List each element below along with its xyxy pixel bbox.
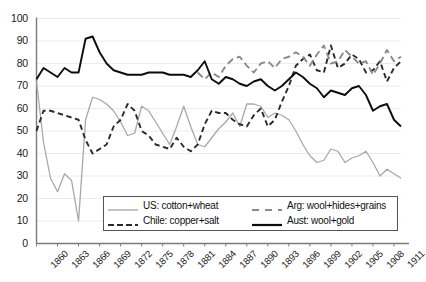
legend-item: Chile: copper+salt: [108, 215, 219, 226]
legend-swatch-icon: [108, 216, 138, 226]
y-tick-label: 10: [2, 214, 28, 226]
y-tick-label: 40: [2, 147, 28, 159]
y-tick-label: 90: [2, 34, 28, 46]
y-tick-label: 60: [2, 102, 28, 114]
legend-swatch-icon: [108, 201, 138, 211]
legend: US: cotton+wheatChile: copper+saltArg: w…: [103, 196, 398, 231]
legend-label: Aust: wool+gold: [287, 215, 354, 226]
y-tick-label: 30: [2, 169, 28, 181]
legend-label: Chile: copper+salt: [143, 215, 219, 226]
y-tick-label: 20: [2, 192, 28, 204]
legend-swatch-icon: [252, 201, 282, 211]
legend-label: Arg: wool+hides+grains: [287, 200, 386, 211]
y-tick-label: 0: [2, 237, 28, 249]
legend-item: Arg: wool+hides+grains: [252, 200, 386, 211]
y-tick-label: 80: [2, 57, 28, 69]
y-tick-label: 50: [2, 124, 28, 136]
legend-swatch-icon: [252, 216, 282, 226]
legend-item: Aust: wool+gold: [252, 215, 354, 226]
legend-label: US: cotton+wheat: [143, 200, 218, 211]
y-tick-label: 100: [2, 12, 28, 24]
legend-item: US: cotton+wheat: [108, 200, 218, 211]
y-tick-label: 70: [2, 79, 28, 91]
series-line-1: [37, 46, 402, 154]
